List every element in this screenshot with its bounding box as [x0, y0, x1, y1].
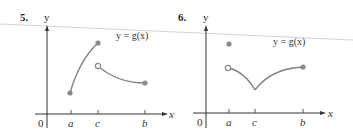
open-dot-a — [225, 65, 230, 70]
function-label: y = g(x) — [116, 30, 148, 42]
tick-label-b: b — [300, 116, 306, 128]
tick-label-c: c — [252, 116, 257, 128]
tick-label-a: a — [68, 117, 74, 129]
closed-dot-a — [67, 90, 72, 95]
tick-label-c: c — [95, 117, 100, 129]
closed-dot-b — [300, 64, 305, 69]
curve-right-branch — [98, 66, 145, 83]
tick-label-a: a — [226, 116, 232, 128]
curve-left-branch — [228, 68, 255, 90]
y-axis-label: y — [44, 11, 50, 23]
closed-dot-c-top — [95, 40, 100, 45]
curve-left-branch — [70, 43, 98, 93]
x-axis-arrow-icon — [162, 112, 168, 116]
function-label: y = g(x) — [273, 36, 305, 48]
figure-canvas: 5. y x 0 a c b y = g(x) 6. y x — [0, 0, 353, 136]
curve-right-branch — [255, 67, 303, 90]
x-axis-label: x — [168, 108, 174, 120]
y-axis-arrow-icon — [204, 25, 208, 31]
x-axis-label: x — [327, 107, 333, 119]
graph-6: 6. y x 0 a c b y = g(x) — [178, 11, 333, 128]
problem-number: 6. — [178, 11, 187, 23]
closed-dot-b — [142, 80, 147, 85]
open-dot-c — [95, 63, 100, 68]
problem-number: 5. — [20, 11, 29, 23]
origin-label: 0 — [197, 116, 203, 128]
closed-dot-isolated-a — [226, 41, 231, 46]
x-axis-arrow-icon — [320, 111, 326, 115]
y-axis-label: y — [203, 11, 209, 23]
tick-label-b: b — [142, 117, 148, 129]
origin-label: 0 — [38, 117, 44, 129]
